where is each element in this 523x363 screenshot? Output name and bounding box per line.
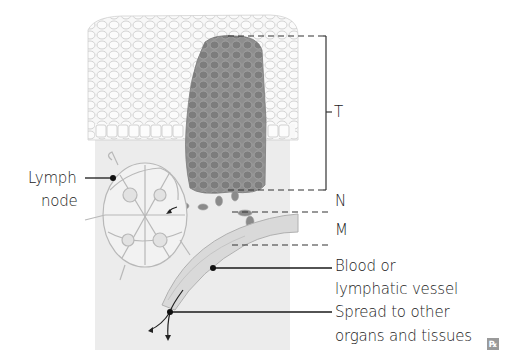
stage-n-label: N xyxy=(335,191,346,211)
vessel-label-line2: lymphatic vessel xyxy=(335,279,458,299)
t-bracket xyxy=(323,36,332,190)
tnm-staging-diagram: T N M Lymph node Blood or lymphatic vess… xyxy=(0,0,523,363)
spread-label-line2: organs and tissues xyxy=(335,326,472,346)
lymph-node-label-line1: Lymph xyxy=(28,168,77,188)
vessel-label-line1: Blood or xyxy=(335,256,395,276)
tumor-mass xyxy=(186,36,267,194)
spread-dot xyxy=(167,309,173,315)
lymph-node-label-line2: node xyxy=(41,191,78,211)
spread-label-line1: Spread to other xyxy=(335,302,449,322)
stage-m-label: M xyxy=(335,220,348,240)
vessel-dot xyxy=(210,265,216,271)
rx-watermark-icon: ℞ xyxy=(487,338,499,350)
lymph-node-dot xyxy=(110,175,116,181)
stage-t-label: T xyxy=(334,102,343,122)
